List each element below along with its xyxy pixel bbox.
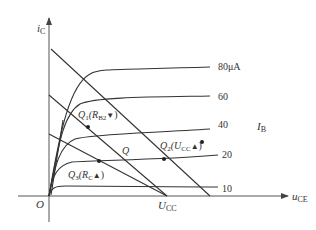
y-axis-label: iC	[37, 22, 45, 36]
curve-label-80: 80μA	[218, 61, 241, 72]
point-q1	[86, 125, 90, 129]
q2-label: Q2(UCC▲)	[160, 140, 202, 153]
curve-ib-10	[49, 186, 218, 196]
q-label: Q	[122, 145, 130, 156]
curve-label-20: 20	[222, 149, 232, 160]
x-axis-label: uCE	[292, 190, 308, 204]
ucc-label: UCC	[158, 199, 177, 213]
transistor-output-characteristics-diagram: iC uCE O UCC 80μA 60 40 20 10 IB Q Q1(RB…	[0, 0, 316, 230]
q3-label: Q3(RC▲)	[68, 169, 104, 182]
curve-label-60: 60	[218, 91, 228, 102]
origin-label: O	[36, 198, 44, 210]
ib-family-label: IB	[256, 120, 266, 134]
curve-label-10: 10	[222, 183, 232, 194]
q1-label: Q1(RB2▼)	[78, 109, 118, 122]
point-q	[162, 157, 166, 161]
point-q3	[97, 159, 101, 163]
load-line-steep	[51, 120, 63, 195]
curve-label-40: 40	[218, 119, 228, 130]
